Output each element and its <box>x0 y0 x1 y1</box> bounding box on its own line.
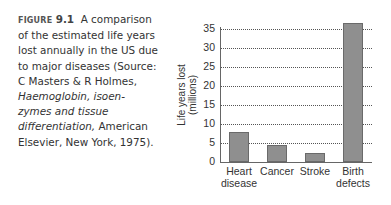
y-tick-label: 20 <box>195 79 215 91</box>
bar-heart-disease <box>229 132 249 162</box>
x-tick-label: Birthdefects <box>328 166 378 189</box>
y-tick-label: 10 <box>195 117 215 129</box>
y-tick-label: 25 <box>195 60 215 72</box>
bar-birth-defects <box>343 23 363 162</box>
x-axis <box>220 162 372 163</box>
y-tick-label: 35 <box>195 22 215 34</box>
y-tick-label: 15 <box>195 98 215 110</box>
y-tick-label: 5 <box>195 136 215 148</box>
y-axis-label-line1: Life years lost <box>176 55 187 135</box>
bar-cancer <box>267 145 287 162</box>
y-axis <box>220 27 221 162</box>
y-tick-label: 30 <box>195 41 215 53</box>
bar-stroke <box>305 153 325 163</box>
bar-chart: Life years lost (millions) 0510152025303… <box>0 0 391 205</box>
y-tick-label: 0 <box>195 155 215 167</box>
